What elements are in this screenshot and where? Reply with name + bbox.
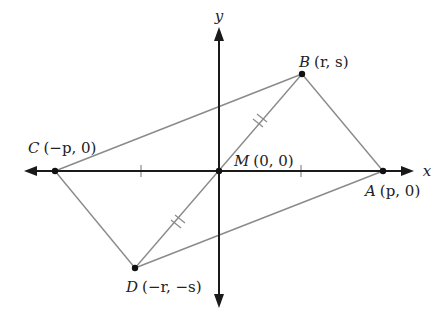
x-axis-right-arrow-icon (401, 166, 414, 176)
label-C: C(−p, 0) (28, 139, 96, 157)
label-M-coords: (0, 0) (253, 152, 293, 170)
coordinate-plane: x y B(r, s) C(−p, 0) M(0, 0) A(p, 0) D(−… (0, 0, 447, 313)
side-DA (135, 171, 383, 268)
point-D (132, 265, 138, 271)
label-D: D(−r, −s) (125, 278, 202, 296)
label-A-name: A (363, 182, 376, 200)
label-M: M(0, 0) (233, 152, 294, 170)
x-axis-label: x (423, 162, 432, 180)
diagram-canvas: x y B(r, s) C(−p, 0) M(0, 0) A(p, 0) D(−… (0, 0, 447, 313)
label-D-coords: (−r, −s) (142, 278, 202, 296)
side-CD (55, 171, 135, 268)
y-axis-down-arrow-icon (214, 294, 224, 308)
side-AB (302, 74, 383, 171)
y-axis-up-arrow-icon (214, 27, 224, 41)
x-axis-left-arrow-icon (24, 166, 37, 176)
label-C-name: C (28, 139, 40, 157)
point-A (380, 168, 386, 174)
label-B-name: B (298, 53, 310, 71)
label-B-coords: (r, s) (314, 53, 348, 71)
label-M-name: M (233, 152, 250, 170)
label-C-coords: (−p, 0) (43, 139, 96, 157)
label-D-name: D (125, 278, 138, 296)
point-B (299, 71, 305, 77)
label-B: B(r, s) (298, 53, 349, 71)
point-C (52, 168, 58, 174)
label-A: A(p, 0) (363, 182, 420, 200)
y-axis-label: y (214, 7, 224, 25)
point-M (216, 168, 222, 174)
label-A-coords: (p, 0) (380, 182, 420, 200)
